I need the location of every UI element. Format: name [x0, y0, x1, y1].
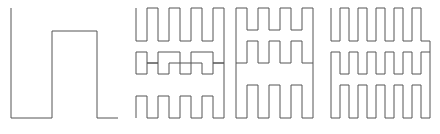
figure-background: [0, 0, 440, 134]
figure-canvas: [0, 0, 440, 134]
curve-figure-svg: [0, 0, 440, 134]
